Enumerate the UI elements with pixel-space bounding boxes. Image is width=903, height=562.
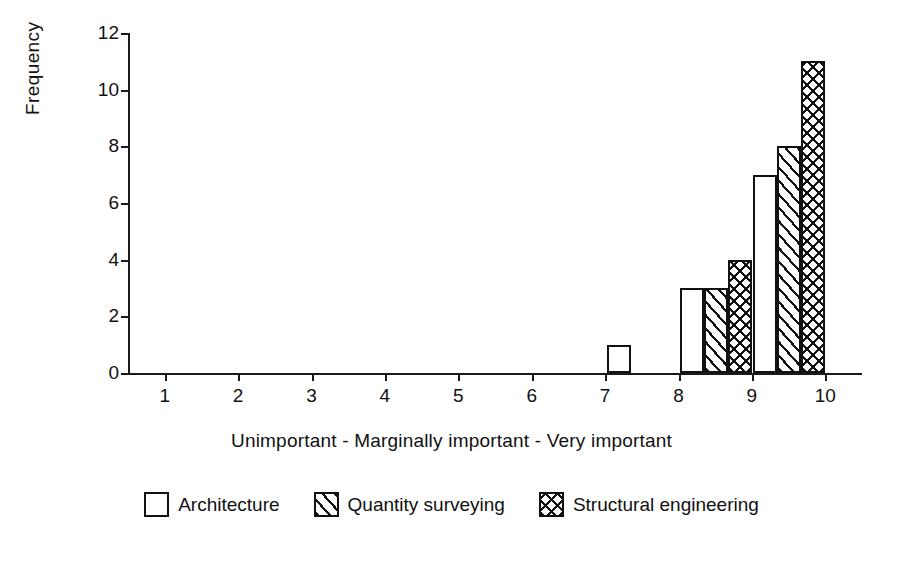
- plot-area: 024681012 12345678910: [128, 33, 862, 375]
- x-tick-label: 4: [380, 385, 391, 407]
- bar: [607, 345, 631, 373]
- x-tick-label: 8: [673, 385, 684, 407]
- x-tick-label: 5: [453, 385, 464, 407]
- legend-item[interactable]: Structural engineering: [539, 492, 759, 517]
- legend-item[interactable]: Architecture: [144, 492, 279, 517]
- bar: [680, 288, 704, 373]
- y-tick-label: 2: [108, 305, 119, 327]
- y-tick-label: 12: [98, 22, 119, 44]
- chart-legend: ArchitectureQuantity surveyingStructural…: [0, 492, 903, 517]
- x-tick-label: 7: [600, 385, 611, 407]
- legend-swatch-icon: [539, 492, 564, 517]
- x-axis-title: Unimportant - Marginally important - Ver…: [0, 430, 903, 452]
- y-tick-mark: [121, 33, 128, 35]
- bar: [704, 288, 728, 373]
- y-tick-label: 0: [108, 362, 119, 384]
- y-axis-line: [128, 33, 130, 375]
- x-tick-label: 6: [526, 385, 537, 407]
- legend-swatch-icon: [144, 492, 169, 517]
- x-tick-label: 3: [306, 385, 317, 407]
- x-tick-mark: [165, 373, 167, 381]
- y-tick-mark: [121, 90, 128, 92]
- x-tick-mark: [605, 373, 607, 381]
- bar: [728, 260, 752, 373]
- y-tick-mark: [121, 316, 128, 318]
- x-tick-mark: [752, 373, 754, 381]
- y-tick-mark: [121, 146, 128, 148]
- y-tick-mark: [121, 203, 128, 205]
- x-tick-label: 10: [815, 385, 836, 407]
- x-tick-mark: [238, 373, 240, 381]
- x-tick-label: 2: [233, 385, 244, 407]
- x-tick-mark: [312, 373, 314, 381]
- y-tick-label: 8: [108, 135, 119, 157]
- legend-swatch-icon: [314, 492, 339, 517]
- y-tick-mark: [121, 373, 128, 375]
- legend-item[interactable]: Quantity surveying: [314, 492, 505, 517]
- legend-label: Architecture: [178, 494, 279, 516]
- x-tick-label: 1: [159, 385, 170, 407]
- y-axis-title: Frequency: [22, 0, 44, 115]
- x-tick-mark: [825, 373, 827, 381]
- legend-label: Quantity surveying: [348, 494, 505, 516]
- bar: [777, 146, 801, 373]
- x-tick-mark: [532, 373, 534, 381]
- y-tick-label: 10: [98, 79, 119, 101]
- x-tick-mark: [679, 373, 681, 381]
- x-tick-mark: [458, 373, 460, 381]
- y-tick-mark: [121, 260, 128, 262]
- y-tick-label: 6: [108, 192, 119, 214]
- bar: [801, 61, 825, 373]
- y-tick-label: 4: [108, 249, 119, 271]
- legend-label: Structural engineering: [573, 494, 759, 516]
- x-tick-mark: [385, 373, 387, 381]
- bar: [753, 175, 777, 373]
- x-tick-label: 9: [747, 385, 758, 407]
- chart-figure: Frequency 024681012 12345678910 Unimport…: [0, 0, 903, 562]
